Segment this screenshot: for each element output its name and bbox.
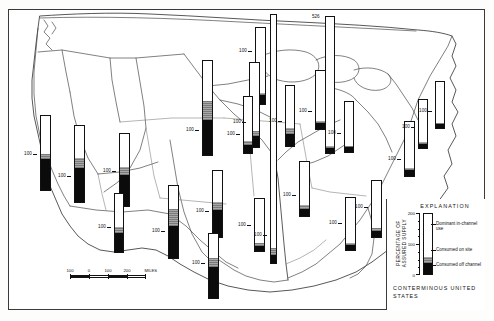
segment-white-south-atlantic-gulf [372,181,381,228]
bar-tick-label-lower-colorado: 100 [103,169,116,174]
segment-white-upper-colorado [115,194,123,227]
scale-bar: 1000100200MILES [70,268,146,280]
bar-tick-label-missouri: 100 [186,128,199,133]
segment-gray-lower-colorado [120,167,129,175]
segment-black-great-lakes [326,148,334,153]
legend-key-consumed-on-site: Consumed on site [436,247,472,252]
region-bar-lower-missouri [285,85,295,147]
region-bar-upper-colorado [114,193,124,253]
scale-unit-label: MILES [144,268,157,273]
segment-black-new-england [436,124,444,128]
bar-tick-label-new-england: 100 [419,109,432,114]
region-bar-great-lakes-east [418,99,428,149]
segment-white-missouri [203,61,212,101]
legend-label-consumed-on-site: Consumed on site [436,247,472,252]
segment-black-mid-atlantic [405,170,414,176]
segment-white-central-plains [300,162,309,205]
segment-black-souris-red-rainy [244,145,252,153]
segment-white-lower-mississippi [271,15,276,248]
bar-tick-label-south-atlantic-gulf: 100 [355,205,368,210]
bar-tick-label-tennessee: 100 [328,131,341,136]
region-bar-new-england [435,81,445,129]
region-bar-souris-red-rainy [243,96,253,154]
region-bar-rio-grande [168,185,179,259]
region-bar-texas-gulf [208,233,219,299]
scale-tick-0: 100 [67,268,74,273]
segment-black-ohio [316,123,325,129]
region-bar-lower-mississippi [270,14,277,264]
segment-black-lower-missouri [286,134,294,146]
scale-tick-1: 0 [88,268,90,273]
bar-tick-label-lower-mississippi: 100 [254,233,267,238]
segment-gray-arkansas-white-red [213,202,222,209]
region-bar-arkansas-white-red [212,170,223,238]
explanation-panel: EXPLANATION PERCENTAGE OF ASSURED SUPPLY… [386,199,485,310]
segment-white-new-england [436,82,444,123]
segment-black-tennessee [345,147,353,152]
segment-white-tennessee [345,102,353,146]
bar-tick-label-central-plains: 100 [283,193,296,198]
bar-tick-label-california: 100 [24,152,37,157]
segment-gray-texas-gulf [209,258,218,267]
segment-black-ozark [255,246,264,251]
bar-tick-label-great-lakes-east: 100 [402,125,415,130]
segment-white-ohio [316,71,325,121]
bar-tick-label-ozark: 100 [238,223,251,228]
segment-white-southeast-coastal [346,198,355,243]
legend-key-consumed-off-channel: Consumed off channel [436,262,481,267]
segment-black-central-plains [300,209,309,216]
segment-white-rio-grande [169,186,178,209]
bar-tick-label-southeast-coastal: 100 [329,221,342,226]
region-bar-ohio [315,70,326,130]
scale-bar-rule [70,275,146,280]
map-root: 1001001001001001001001001001001005261001… [0,0,494,321]
scale-tick-2: 100 [105,268,112,273]
bar-tick-label-mid-atlantic: 100 [388,157,401,162]
region-bar-tennessee [344,101,354,153]
bar-tick-label-upper-colorado: 100 [98,225,111,230]
bar-tick-label-rio-grande: 100 [152,229,165,234]
segment-black-upper-colorado [115,233,123,252]
legend-label-consumed-off-channel: Consumed off channel [436,262,481,267]
region-bar-great-basin [74,125,85,203]
scale-tick-3: 200 [124,268,131,273]
bar-tick-label-texas-gulf: 100 [192,261,205,266]
bar-tick-label-arkansas-white-red: 100 [196,209,209,214]
bar-tick-label-souris-red-rainy: 100 [227,132,240,137]
segment-black-missouri [203,120,212,155]
bar-tick-label-lower-missouri: 100 [269,119,282,124]
segment-black-south-atlantic-gulf [372,231,381,237]
segment-black-lower-mississippi [271,255,276,263]
axis-tick-0: 0 [413,273,415,278]
segment-black-california [41,159,50,190]
segment-white-lower-colorado [120,134,129,167]
segment-white-california [41,116,50,154]
region-bar-south-atlantic-gulf [371,180,382,238]
bar-tick-label-ohio: 100 [299,109,312,114]
segment-white-souris-red-rainy [244,97,252,141]
segment-white-lower-missouri [286,86,294,128]
axis-tick-100: 100 [408,242,415,247]
segment-black-rio-grande [169,226,178,259]
bar-tick-label-great-basin: 100 [58,174,71,179]
bar-tick-label-upper-mississippi: 100 [233,120,246,125]
bar-tick-label-pacific-northwest: 100 [239,49,252,54]
segment-black-great-basin [75,168,84,202]
segment-white-texas-gulf [209,234,218,258]
map-region-label: CONTERMINOUS UNITED STATES [393,285,485,300]
segment-white-great-basin [75,126,84,158]
segment-white-arkansas-white-red [213,171,222,202]
region-bar-central-plains [299,161,310,217]
explanation-axis-title: PERCENTAGE OF ASSURED SUPPLY [396,215,408,271]
segment-gray-great-basin [75,158,84,168]
bar-value-label-great-lakes: 526 [312,14,320,19]
segment-gray-missouri [203,101,212,119]
segment-black-texas-gulf [209,267,218,298]
explanation-heading: EXPLANATION [407,203,483,209]
legend-key-dominant-in-channel-use: Dominant in-channel use [436,221,485,231]
segment-gray-rio-grande [169,209,178,225]
region-bar-california [40,115,51,191]
legend-label-dominant-in-channel-use: Dominant in-channel use [436,221,477,231]
region-bar-ozark [254,198,265,252]
segment-black-southeast-coastal [346,245,355,250]
